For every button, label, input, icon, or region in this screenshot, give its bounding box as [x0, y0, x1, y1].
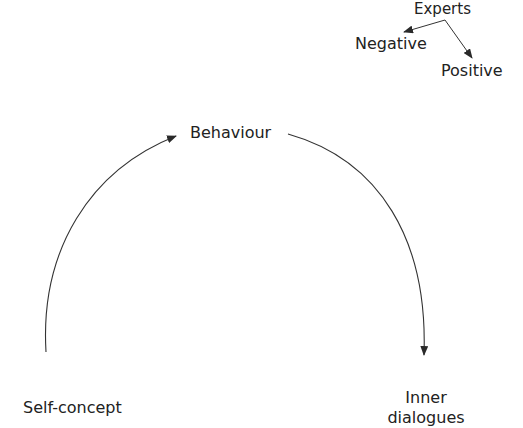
node-self-concept: Self-concept — [23, 399, 122, 417]
node-negative: Negative — [355, 35, 427, 53]
node-positive: Positive — [441, 62, 503, 80]
node-inner-dialogues: Inner dialogues — [384, 388, 468, 428]
arrow-experts-to-positive — [445, 20, 472, 58]
node-inner-dialogues-line1: Inner — [384, 388, 468, 408]
arrow-behaviour-to-inner-dialogues — [288, 134, 424, 355]
arrow-experts-to-negative — [404, 20, 445, 32]
node-experts: Experts — [414, 0, 471, 18]
arrow-selfconcept-to-behaviour — [46, 136, 176, 352]
node-inner-dialogues-line2: dialogues — [384, 408, 468, 428]
node-behaviour: Behaviour — [190, 124, 271, 142]
